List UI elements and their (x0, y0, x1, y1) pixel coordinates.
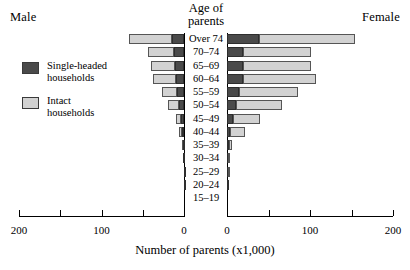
bar-male-single-headed (177, 87, 184, 97)
category-axis-title: Age of parents (165, 2, 247, 28)
x-tick-label-male: 0 (181, 224, 187, 236)
pyramid-row: 70–74 (0, 46, 410, 59)
x-axis-caption: Number of parents (x1,000) (0, 243, 410, 258)
age-group-label: 70–74 (186, 46, 226, 58)
x-tick-female (352, 210, 353, 216)
x-axis-male (19, 216, 185, 217)
age-group-label: 45–49 (186, 113, 226, 125)
bar-female-intact (230, 127, 245, 137)
pyramid-row: 60–64 (0, 73, 410, 86)
bar-female-intact (228, 153, 230, 163)
bar-female-intact (259, 34, 354, 44)
bar-female-intact (229, 140, 232, 150)
age-group-label: 20–24 (186, 179, 226, 191)
bar-male-single-headed (176, 74, 184, 84)
age-group-label: 35–39 (186, 139, 226, 151)
pyramid-row: 65–69 (0, 60, 410, 73)
bar-male-intact (153, 74, 176, 84)
x-tick-label-male: 200 (11, 224, 28, 236)
bar-female-single-headed (227, 47, 243, 57)
x-tick-label-female: 0 (224, 224, 230, 236)
male-side-label: Male (10, 10, 36, 25)
bar-female-intact (239, 87, 297, 97)
bar-male-intact (151, 61, 175, 71)
pyramid-row: 55–59 (0, 86, 410, 99)
bar-male-intact (148, 47, 174, 57)
bar-male-single-headed (183, 153, 185, 163)
bar-male-single-headed (174, 47, 184, 57)
age-group-label: 15–19 (186, 192, 226, 204)
bar-female-single-headed (227, 34, 259, 44)
pyramid-row: 35–39 (0, 139, 410, 152)
population-pyramid-chart: Male Female Age of parents Single-headed… (0, 0, 410, 270)
age-group-label: 55–59 (186, 86, 226, 98)
age-group-label: 50–54 (186, 99, 226, 111)
plot-area: Over 7470–7465–6960–6455–5950–5445–4940–… (0, 33, 410, 211)
x-tick-male (102, 210, 103, 216)
bar-male-single-headed (183, 140, 185, 150)
bar-male-single-headed (181, 114, 184, 124)
age-group-label: 25–29 (186, 166, 226, 178)
female-side-label: Female (362, 10, 400, 25)
pyramid-row: 25–29 (0, 166, 410, 179)
bar-female-intact (228, 167, 230, 177)
age-group-label: 65–69 (186, 60, 226, 72)
age-group-label: 40–44 (186, 126, 226, 138)
x-tick-female (227, 210, 228, 216)
bar-male-single-headed (175, 61, 184, 71)
x-tick-female (393, 210, 394, 216)
bar-female-intact (243, 47, 311, 57)
bar-male-intact (168, 100, 179, 110)
x-tick-label-female: 100 (302, 224, 319, 236)
bar-male-single-headed (172, 34, 184, 44)
bar-female-intact (243, 74, 316, 84)
pyramid-row: 40–44 (0, 126, 410, 139)
bar-female-single-headed (227, 87, 239, 97)
bar-female-intact (243, 61, 311, 71)
pyramid-row: 45–49 (0, 113, 410, 126)
x-tick-male (60, 210, 61, 216)
bar-female-single-headed (227, 100, 236, 110)
x-tick-female (269, 210, 270, 216)
category-axis-title-line-2: parents (165, 15, 247, 28)
bar-male-intact (129, 34, 173, 44)
age-group-label: 60–64 (186, 73, 226, 85)
age-group-label: 30–34 (186, 152, 226, 164)
x-tick-label-male: 100 (93, 224, 110, 236)
bar-female-intact (236, 100, 282, 110)
bar-female-intact (233, 114, 260, 124)
x-tick-male (19, 210, 20, 216)
bar-male-single-headed (182, 127, 184, 137)
x-tick-label-female: 200 (385, 224, 402, 236)
pyramid-row: 20–24 (0, 179, 410, 192)
bar-female-single-headed (227, 61, 243, 71)
bar-male-intact (162, 87, 178, 97)
bar-female-single-headed (227, 180, 229, 190)
pyramid-row: 50–54 (0, 99, 410, 112)
bar-female-single-headed (227, 74, 243, 84)
x-tick-male (143, 210, 144, 216)
x-tick-female (310, 210, 311, 216)
pyramid-row: 30–34 (0, 152, 410, 165)
x-tick-male (184, 210, 185, 216)
bar-male-single-headed (179, 100, 184, 110)
pyramid-row: 15–19 (0, 192, 410, 205)
x-axis-female (227, 216, 393, 217)
age-group-label: Over 74 (186, 33, 226, 45)
pyramid-row: Over 74 (0, 33, 410, 46)
